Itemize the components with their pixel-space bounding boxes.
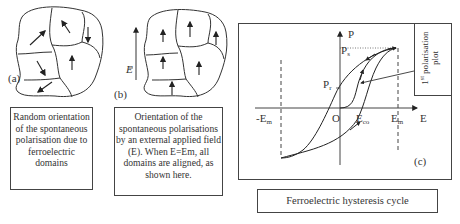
panel-a-caption: Random orientation of the spontaneous po…	[10, 107, 93, 190]
panel-c-label: (c)	[414, 155, 426, 167]
hysteresis-loop	[281, 48, 396, 158]
panel-b-label: (b)	[114, 88, 127, 100]
neg-em-label: -Em	[256, 112, 272, 126]
first-polarisation-pointer	[361, 71, 414, 83]
eco-label: Eco	[356, 112, 369, 126]
first-polarisation-label: 1st polarisation plot	[417, 23, 440, 93]
p-axis-label: P	[348, 28, 354, 40]
em-label: Em	[391, 112, 403, 126]
panel-a-label: (a)	[8, 72, 20, 84]
pr-label: Pr	[323, 78, 331, 92]
polarisation-arrows-a	[30, 21, 88, 92]
panel-b-caption: Orientation of the spontaneous polarisat…	[114, 107, 223, 196]
ps-label: Ps	[341, 44, 350, 58]
domain-grain-b	[144, 10, 227, 97]
field-symbol: E	[126, 63, 133, 75]
e-axis-label: E	[420, 112, 427, 124]
hysteresis-caption: Ferroelectric hysteresis cycle	[257, 189, 438, 213]
domain-grain-a	[16, 7, 103, 97]
origin-label: O	[332, 112, 340, 124]
